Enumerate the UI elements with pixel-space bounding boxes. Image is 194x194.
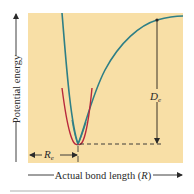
x-axis-label-prefix: Actual bond length ( (55, 170, 142, 182)
x-axis-label-suffix: ) (148, 170, 152, 182)
de-subscript: e (158, 96, 161, 104)
re-subscript: e (51, 154, 54, 162)
caption-trace (10, 190, 80, 192)
dissociation-energy-top-dot (155, 18, 158, 21)
plot-background (28, 13, 183, 163)
de-symbol: D (149, 90, 158, 102)
y-axis-label: Potential energy (11, 54, 22, 123)
x-axis-label: Actual bond length (R) (55, 170, 152, 182)
potential-energy-diagram: De Re Potential energy Actual bond lengt… (0, 0, 194, 194)
